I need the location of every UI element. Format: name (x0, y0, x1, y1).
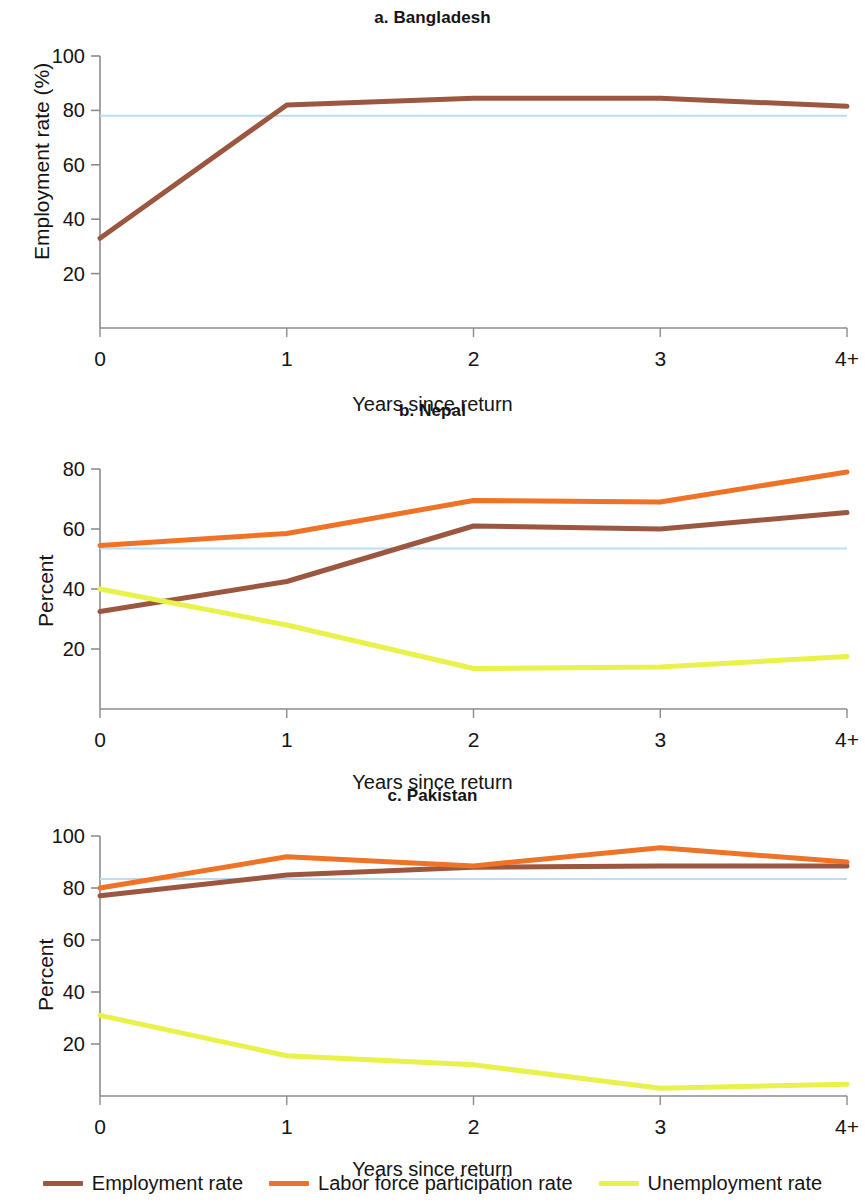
legend-swatch-icon (599, 1181, 639, 1186)
figure-legend: Employment rateLabor force participation… (0, 1168, 865, 1198)
figure-root: a. Bangladesh Employment rate (%)2040608… (0, 0, 865, 1203)
panel-title-pakistan: c. Pakistan (0, 780, 865, 806)
y-tick-label: 20 (0, 639, 85, 659)
chart-svg (0, 28, 865, 388)
legend-label: Unemployment rate (648, 1172, 823, 1195)
panel-title-bangladesh: a. Bangladesh (0, 0, 865, 28)
x-tick-label: 1 (281, 1116, 293, 1137)
y-tick-label: 60 (0, 519, 85, 539)
plot-area-nepal: Percent2040608001234+Years since return (0, 421, 865, 773)
panel-title-nepal: b. Nepal (0, 395, 865, 421)
legend-swatch-icon (269, 1181, 309, 1186)
y-tick-label: 80 (0, 100, 85, 120)
y-axis-label: Percent (0, 806, 1, 807)
y-axis-label: Percent (0, 421, 1, 422)
series-line (100, 472, 847, 546)
x-tick-label: 3 (654, 348, 666, 369)
y-tick-label: 100 (0, 46, 85, 66)
x-tick-label: 3 (654, 729, 666, 750)
chart-panel-bangladesh: a. Bangladesh Employment rate (%)2040608… (0, 0, 865, 395)
legend-item: Labor force participation rate (269, 1172, 573, 1195)
y-tick-label: 60 (0, 930, 85, 950)
y-tick-label: 40 (0, 982, 85, 1002)
chart-svg (0, 421, 865, 773)
y-tick-label: 40 (0, 209, 85, 229)
y-tick-label: 20 (0, 264, 85, 284)
x-tick-label: 2 (468, 348, 480, 369)
y-tick-label: 60 (0, 155, 85, 175)
legend-swatch-icon (43, 1181, 83, 1186)
y-tick-label: 80 (0, 459, 85, 479)
series-line (100, 513, 847, 612)
series-line (100, 589, 847, 669)
legend-label: Labor force participation rate (318, 1172, 573, 1195)
chart-panel-pakistan: c. Pakistan Percent2040608010001234+Year… (0, 780, 865, 1160)
x-tick-label: 1 (281, 729, 293, 750)
legend-label: Employment rate (92, 1172, 243, 1195)
x-tick-label: 4+ (835, 1116, 859, 1137)
x-tick-label: 3 (654, 1116, 666, 1137)
x-tick-label: 1 (281, 348, 293, 369)
y-tick-label: 40 (0, 579, 85, 599)
x-tick-label: 2 (468, 1116, 480, 1137)
legend-item: Unemployment rate (599, 1172, 823, 1195)
chart-svg (0, 806, 865, 1151)
x-tick-label: 2 (468, 729, 480, 750)
x-tick-label: 4+ (835, 729, 859, 750)
series-line (100, 1015, 847, 1088)
x-tick-label: 4+ (835, 348, 859, 369)
y-tick-label: 20 (0, 1034, 85, 1054)
x-tick-label: 0 (94, 729, 106, 750)
series-line (100, 98, 847, 238)
legend-item: Employment rate (43, 1172, 243, 1195)
y-tick-label: 100 (0, 826, 85, 846)
chart-panel-nepal: b. Nepal Percent2040608001234+Years sinc… (0, 395, 865, 780)
x-tick-label: 0 (94, 348, 106, 369)
plot-area-bangladesh: Employment rate (%)2040608010001234+Year… (0, 28, 865, 388)
x-tick-label: 0 (94, 1116, 106, 1137)
plot-area-pakistan: Percent2040608010001234+Years since retu… (0, 806, 865, 1151)
y-tick-label: 80 (0, 878, 85, 898)
y-axis-label: Employment rate (%) (0, 28, 1, 29)
